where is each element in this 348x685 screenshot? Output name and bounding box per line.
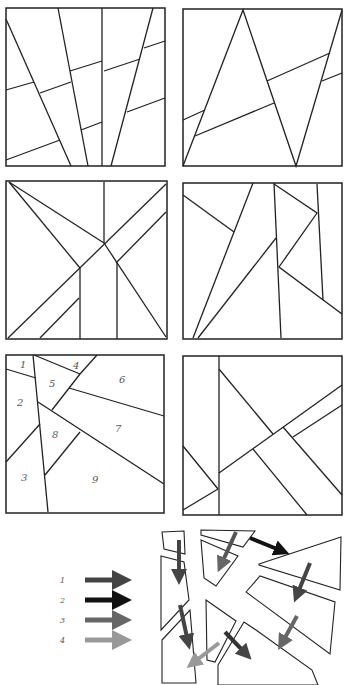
arrow-legend: 1 2 3 4 — [59, 576, 122, 645]
piece-5-outline — [201, 540, 238, 586]
legend-label-2: 2 — [59, 596, 65, 605]
legend-label-4: 4 — [59, 636, 65, 645]
piece-label-1: 1 — [20, 359, 26, 370]
piece-label-7: 7 — [115, 423, 122, 434]
piece-label-2: 2 — [16, 397, 23, 408]
legend-label-3: 3 — [60, 616, 65, 625]
piece-label-9: 9 — [92, 474, 99, 485]
piece-label-3: 3 — [21, 472, 27, 483]
panel-a-fan-dissection — [6, 8, 165, 166]
panel-e-numbered-dissection: 1 4 5 6 2 7 8 3 9 — [6, 355, 164, 513]
piece-label-8: 8 — [52, 429, 58, 440]
displacement-arrow-4-icon — [250, 538, 282, 551]
piece-label-5: 5 — [49, 378, 55, 389]
panel-c-cross-dissection — [6, 181, 167, 339]
panel-f-strip-dissection — [183, 356, 342, 515]
piece-label-6: 6 — [119, 374, 126, 385]
panel-d-wedge-dissection — [183, 183, 342, 339]
exploded-pieces — [161, 530, 341, 685]
puzzle-figure: 1 4 5 6 2 7 8 3 9 1 2 3 4 — [0, 0, 348, 685]
piece-label-4: 4 — [72, 360, 79, 371]
piece-1-outline — [162, 531, 185, 554]
legend-label-1: 1 — [60, 576, 65, 585]
panel-b-zigzag-dissection — [183, 9, 342, 166]
